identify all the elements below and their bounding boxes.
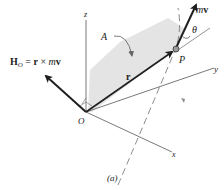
angular-momentum-diagram: z y x O P θ A r mv HO = r × mv (a) xyxy=(0,0,224,190)
theta-arc-icon xyxy=(183,36,190,38)
mv-vector-label: mv xyxy=(196,4,208,15)
origin-label: O xyxy=(78,116,85,126)
y-axis-label: y xyxy=(213,64,218,74)
x-axis-label: x xyxy=(171,150,176,159)
r-vector-label: r xyxy=(126,71,131,82)
point-p xyxy=(173,46,179,52)
area-a-label: A xyxy=(100,31,108,42)
trajectory-arrow-icon xyxy=(181,98,185,103)
angular-momentum-equation: HO = r × mv xyxy=(10,56,61,69)
angular-momentum-vector xyxy=(46,76,86,112)
z-axis-label: z xyxy=(83,10,88,19)
theta-label: θ xyxy=(192,24,197,35)
x-axis xyxy=(86,112,172,152)
point-p-label: P xyxy=(178,54,185,65)
figure-caption: (a) xyxy=(107,173,118,183)
